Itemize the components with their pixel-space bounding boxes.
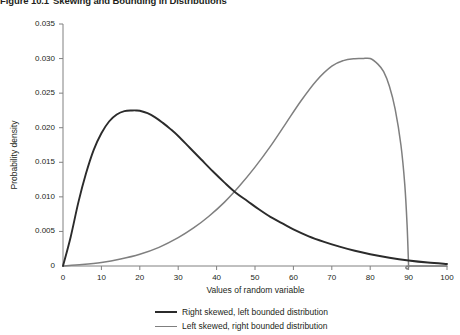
y-axis-tick-label: 0.010 (21, 192, 55, 201)
x-axis-tick-label: 20 (125, 273, 155, 282)
y-axis-tick-label: 0 (21, 261, 55, 270)
series-line-right-skewed (63, 110, 447, 266)
x-axis-ticks (101, 266, 447, 270)
y-axis-title: Probability density (9, 95, 19, 215)
y-axis-tick-label: 0.020 (21, 123, 55, 132)
y-axis-tick-label: 0.030 (21, 54, 55, 63)
x-axis-tick-label: 80 (355, 273, 385, 282)
x-axis-tick-label: 100 (432, 273, 460, 282)
y-axis-tick-label: 0.035 (21, 19, 55, 28)
x-axis-tick-label: 40 (202, 273, 232, 282)
y-axis-ticks (59, 24, 63, 231)
y-axis-tick-label: 0.005 (21, 226, 55, 235)
series-line-left-skewed (63, 58, 447, 269)
legend-item-label: Right skewed, left bounded distribution (182, 307, 328, 317)
x-axis-tick-label: 30 (163, 273, 193, 282)
x-axis-tick-label: 0 (48, 273, 78, 282)
legend-item-label: Left skewed, right bounded distribution (182, 321, 328, 331)
chart-area: Probability density Values of random var… (0, 0, 460, 335)
chart-legend: Right skewed, left bounded distributionL… (0, 305, 460, 333)
x-axis-tick-label: 90 (394, 273, 424, 282)
legend-item[interactable]: Left skewed, right bounded distribution (0, 319, 460, 333)
x-axis-tick-label: 10 (86, 273, 116, 282)
legend-line-swatch-icon (155, 311, 177, 313)
x-axis-tick-label: 60 (278, 273, 308, 282)
x-axis-title: Values of random variable (63, 285, 448, 295)
legend-line-swatch-icon (155, 326, 177, 327)
y-axis-tick-label: 0.015 (21, 157, 55, 166)
x-axis-tick-label: 50 (240, 273, 270, 282)
legend-item[interactable]: Right skewed, left bounded distribution (0, 305, 460, 319)
x-axis-tick-label: 70 (317, 273, 347, 282)
y-axis-tick-label: 0.025 (21, 88, 55, 97)
